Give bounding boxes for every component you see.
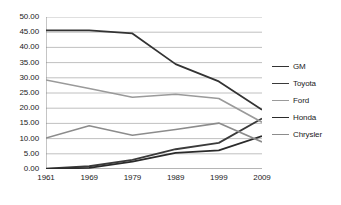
x-tick-label: 1999: [210, 173, 227, 183]
x-tick-label: 1961: [37, 173, 54, 183]
series-line-toyota: [46, 119, 262, 169]
legend-swatch-icon: [272, 100, 289, 102]
y-tick-label: 15.00: [19, 119, 39, 127]
legend-swatch-icon: [272, 117, 289, 119]
y-tick-label: 50.00: [19, 13, 39, 21]
y-tick-label: 20.00: [19, 104, 39, 112]
x-tick-label: 1979: [124, 173, 141, 183]
x-tick-label: 1989: [167, 173, 184, 183]
legend-label: Toyota: [293, 79, 316, 88]
legend-swatch-icon: [272, 66, 289, 68]
series-line-ford: [46, 80, 262, 122]
legend-item-chrysler[interactable]: Chrysler: [272, 126, 340, 143]
y-tick-label: 30.00: [19, 74, 39, 82]
y-tick-label: 25.00: [19, 89, 39, 97]
legend-swatch-icon: [272, 134, 289, 136]
legend-swatch-icon: [272, 83, 289, 85]
series-line-chrysler: [46, 123, 262, 142]
legend-item-honda[interactable]: Honda: [272, 109, 340, 126]
legend-item-gm[interactable]: GM: [272, 58, 340, 75]
plot-svg: [46, 17, 262, 169]
line-chart: 0.005.0010.0015.0020.0025.0030.0035.0040…: [0, 0, 341, 205]
x-axis-tick-labels: 196119691979198919992009: [46, 173, 262, 187]
legend-label: Chrysler: [293, 130, 322, 139]
legend-label: Ford: [293, 96, 309, 105]
y-tick-label: 45.00: [19, 28, 39, 36]
legend-item-toyota[interactable]: Toyota: [272, 75, 340, 92]
legend-label: GM: [293, 62, 306, 71]
data-series: [46, 30, 262, 169]
y-tick-label: 5.00: [24, 150, 39, 158]
plot-area: [46, 17, 262, 169]
y-tick-label: 0.00: [24, 165, 39, 173]
series-line-honda: [46, 136, 262, 169]
y-tick-label: 35.00: [19, 59, 39, 67]
y-axis-tick-labels: 0.005.0010.0015.0020.0025.0030.0035.0040…: [0, 17, 42, 169]
series-line-gm: [46, 30, 262, 109]
legend-item-ford[interactable]: Ford: [272, 92, 340, 109]
y-tick-label: 10.00: [19, 135, 39, 143]
y-tick-label: 40.00: [19, 43, 39, 51]
chart-legend: GMToyotaFordHondaChrysler: [272, 58, 340, 143]
x-tick-label: 1969: [80, 173, 97, 183]
x-tick-label: 2009: [253, 173, 270, 183]
legend-label: Honda: [293, 113, 316, 122]
